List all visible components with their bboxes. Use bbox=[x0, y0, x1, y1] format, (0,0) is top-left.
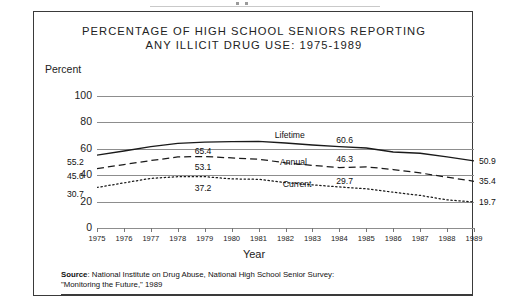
source-divider bbox=[61, 294, 473, 295]
x-axis-tick-label: 1989 bbox=[466, 234, 483, 243]
x-axis-label: Year bbox=[34, 248, 474, 260]
x-axis-tick bbox=[420, 228, 421, 232]
x-axis-tick-label: 1988 bbox=[439, 234, 456, 243]
x-axis-tick bbox=[151, 228, 152, 232]
x-axis-tick-label: 1982 bbox=[277, 234, 294, 243]
x-axis-tick bbox=[312, 228, 313, 232]
data-label-annual-1980: 53.1 bbox=[195, 162, 212, 172]
y-axis-label: Percent bbox=[45, 63, 81, 75]
x-axis-ticks: 1975197619771978197919801981198219831984… bbox=[97, 228, 474, 233]
x-axis-tick-label: 1979 bbox=[196, 234, 213, 243]
data-label-lifetime-1989: 50.9 bbox=[479, 156, 496, 166]
x-axis-tick-label: 1984 bbox=[331, 234, 348, 243]
scan-artifact-line bbox=[150, 6, 380, 7]
x-axis-tick-label: 1978 bbox=[169, 234, 186, 243]
x-axis-tick bbox=[259, 228, 260, 232]
x-axis-tick bbox=[124, 228, 125, 232]
x-axis-tick bbox=[339, 228, 340, 232]
x-axis-tick-label: 1975 bbox=[89, 234, 106, 243]
source-line2: "Monitoring the Future," 1989 bbox=[61, 280, 461, 290]
source-line1: Source: National Institute on Drug Abuse… bbox=[61, 270, 461, 280]
x-axis-tick bbox=[178, 228, 179, 232]
x-axis-tick bbox=[205, 228, 206, 232]
data-label-current-1980: 37.2 bbox=[195, 183, 212, 193]
scan-artifact-speck bbox=[236, 2, 239, 5]
x-axis-tick bbox=[366, 228, 367, 232]
source-note: Source: National Institute on Drug Abuse… bbox=[61, 270, 461, 289]
chart-card: PERCENTAGE OF HIGH SCHOOL SENIORS REPORT… bbox=[33, 11, 473, 296]
data-label-lifetime-1980: 65.4 bbox=[195, 146, 212, 156]
series-name-label-lifetime: Lifetime bbox=[275, 130, 305, 140]
y-axis-tick-label: 80 bbox=[52, 115, 92, 127]
y-axis-tick-label: 60 bbox=[52, 142, 92, 154]
x-axis-tick-label: 1983 bbox=[304, 234, 321, 243]
x-axis-tick bbox=[474, 228, 475, 232]
series-name-label-annual: Annual bbox=[280, 157, 307, 167]
data-label-current-1985: 29.7 bbox=[336, 176, 353, 186]
source-prefix: Source bbox=[61, 270, 87, 279]
chart-title-line1: PERCENTAGE OF HIGH SCHOOL SENIORS REPORT… bbox=[34, 24, 474, 38]
chart-title: PERCENTAGE OF HIGH SCHOOL SENIORS REPORT… bbox=[34, 24, 474, 52]
x-axis-tick bbox=[286, 228, 287, 232]
data-label-lifetime-1985: 60.6 bbox=[336, 135, 353, 145]
y-axis-tick-label: 40 bbox=[52, 168, 92, 180]
y-axis-tick-label: 100 bbox=[52, 89, 92, 101]
data-label-annual-1985: 46.3 bbox=[336, 154, 353, 164]
x-axis-tick bbox=[447, 228, 448, 232]
x-axis-tick-label: 1976 bbox=[115, 234, 132, 243]
x-axis-tick-label: 1986 bbox=[385, 234, 402, 243]
x-axis-tick-label: 1987 bbox=[412, 234, 429, 243]
x-axis-tick bbox=[97, 228, 98, 232]
y-axis-tick-label: 20 bbox=[52, 195, 92, 207]
x-axis-tick-label: 1977 bbox=[142, 234, 159, 243]
x-axis-tick bbox=[232, 228, 233, 232]
series-name-label-current: Current bbox=[283, 179, 312, 189]
x-axis-tick-label: 1980 bbox=[223, 234, 240, 243]
chart-title-line2: ANY ILLICIT DRUG USE: 1975-1989 bbox=[34, 38, 474, 52]
data-label-current-1989: 19.7 bbox=[479, 197, 496, 207]
data-label-lifetime-1975: 55.2 bbox=[67, 157, 84, 167]
data-label-annual-1989: 35.4 bbox=[479, 176, 496, 186]
source-line1-text: : National Institute on Drug Abuse, Nati… bbox=[87, 270, 334, 279]
x-axis-tick bbox=[393, 228, 394, 232]
y-axis-tick-label: 0 bbox=[52, 221, 92, 233]
x-axis-tick-label: 1985 bbox=[358, 234, 375, 243]
x-axis-tick-label: 1981 bbox=[250, 234, 267, 243]
scan-artifact-speck bbox=[245, 2, 248, 5]
